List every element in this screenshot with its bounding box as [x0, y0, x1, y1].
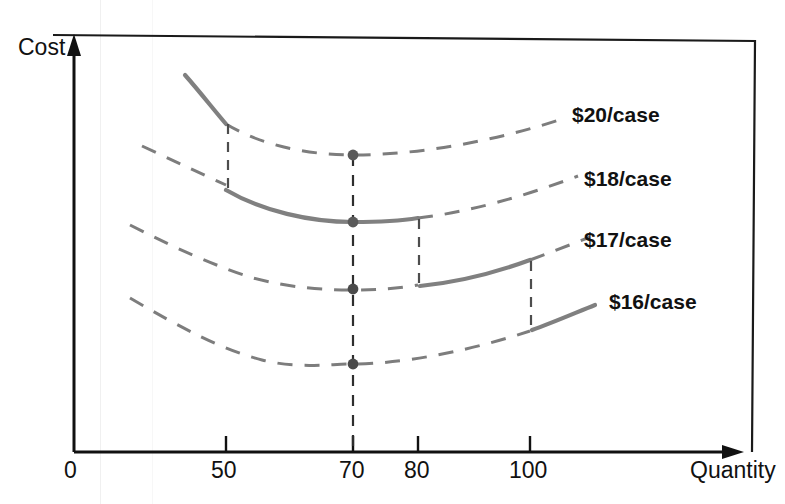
x-tick-label-80: 80 [404, 457, 430, 484]
cost-curve-chart [0, 0, 785, 504]
curve-20-case-solid [185, 75, 226, 124]
x-tick-label-100: 100 [509, 457, 547, 484]
marker-q70-16-case [348, 359, 359, 370]
series-label-17-case: $17/case [584, 228, 672, 252]
x-axis-label: Quantity [690, 457, 776, 484]
series-label-20-case: $20/case [572, 103, 660, 127]
marker-q70-17-case [348, 284, 359, 295]
curve-17-case-dashed-right [530, 237, 590, 260]
curve-20-case [185, 75, 565, 155]
curve-18-case-dashed-right [418, 176, 578, 218]
figure-canvas: Cost Quantity 0 50 70 80 100 $20/case $1… [0, 0, 785, 504]
curve-20-case-dashed [226, 118, 565, 155]
curve-18-case-dashed-left [142, 146, 226, 185]
x-tick-label-70: 70 [339, 457, 365, 484]
series-label-16-case: $16/case [609, 290, 697, 314]
marker-q70-20-case [348, 150, 359, 161]
curve-17-case [130, 225, 590, 290]
curve-16-case-solid [532, 305, 595, 330]
y-axis [67, 34, 81, 452]
series-label-18-case: $18/case [584, 167, 672, 191]
drop-lines [228, 124, 531, 331]
curve-16-case [130, 298, 595, 365]
curve-18-case [142, 146, 578, 222]
curve-18-case-solid [226, 190, 418, 222]
curve-17-case-dashed-left [130, 225, 418, 290]
y-axis-label: Cost [18, 34, 65, 61]
x-axis-ticks [226, 436, 530, 452]
x-tick-label-50: 50 [211, 457, 237, 484]
curve-17-case-solid [420, 260, 530, 286]
marker-q70-18-case [348, 217, 359, 228]
x-tick-label-origin: 0 [64, 457, 77, 484]
curve-16-case-dashed [130, 298, 530, 365]
